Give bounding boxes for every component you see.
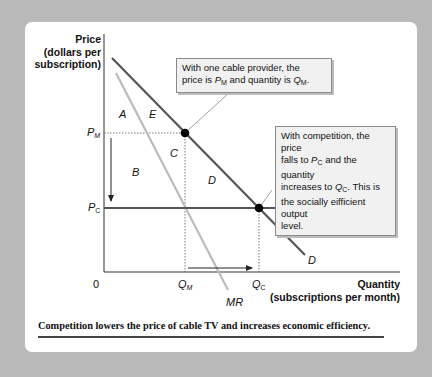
- area-c-label: C: [170, 147, 178, 159]
- competitive-point: [255, 204, 264, 213]
- mr-label: MR: [226, 296, 243, 308]
- pc-tick-label: PC: [88, 201, 100, 214]
- x-axis-title-line2: (subscriptions per month): [250, 291, 400, 304]
- text: and quantity is: [227, 74, 294, 85]
- y-axis-title-line2: (dollars per: [30, 46, 101, 59]
- text: .: [307, 74, 310, 85]
- qc-sub: C: [261, 284, 266, 291]
- qc-main: Q: [252, 278, 261, 290]
- qm-tick-label: QM: [178, 278, 192, 291]
- text: price is: [182, 74, 215, 85]
- qm-sub: M: [187, 284, 193, 291]
- pc-sub: C: [95, 207, 100, 214]
- area-d-label: D: [208, 174, 216, 186]
- figure-caption: Competition lowers the price of cable TV…: [38, 320, 370, 331]
- y-axis-title-line3: subscription): [30, 58, 101, 71]
- x-axis-title-line1: Quantity: [250, 278, 400, 291]
- callout-monopoly-line1: With one cable provider, the: [182, 62, 326, 74]
- monopoly-point: [181, 129, 190, 138]
- text: increases to: [281, 181, 335, 192]
- callout-competition: With competition, the price falls to PC …: [275, 126, 396, 236]
- callout-competition-line4: the socially eifficient output: [281, 196, 390, 220]
- callout-competition-line5: level.: [281, 220, 390, 232]
- callout-competition-line1: With competition, the price: [281, 130, 390, 154]
- caption-rule: [38, 336, 384, 338]
- pm-tick-label: PM: [87, 126, 100, 139]
- area-e-label: E: [149, 108, 156, 120]
- origin-label: 0: [93, 278, 99, 290]
- text: falls to: [281, 154, 311, 165]
- demand-label: D: [308, 254, 316, 266]
- callout-connector-monopoly: [185, 92, 230, 133]
- qm-main: Q: [178, 278, 187, 290]
- y-axis-title: Price (dollars per subscription): [30, 33, 101, 71]
- x-axis-title: Quantity (subscriptions per month): [250, 278, 400, 303]
- callout-competition-line2: falls to PC and the quantity: [281, 154, 390, 181]
- qm-symbol: Q: [293, 74, 300, 85]
- y-axis-title-line1: Price: [30, 33, 101, 46]
- pm-sub: M: [94, 132, 100, 139]
- area-a-label: A: [119, 108, 126, 120]
- callout-monopoly: With one cable provider, the price is PM…: [176, 58, 332, 93]
- callout-monopoly-line2: price is PM and quantity is QM.: [182, 74, 326, 89]
- text: . This is: [347, 181, 380, 192]
- callout-competition-line3: increases to QC. This is: [281, 181, 390, 196]
- qc-tick-label: QC: [252, 278, 266, 291]
- area-b-label: B: [132, 166, 139, 178]
